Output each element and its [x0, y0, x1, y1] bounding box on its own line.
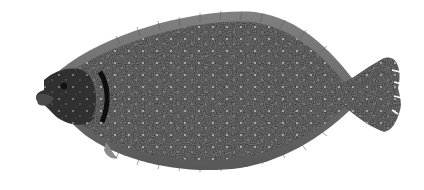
fish-eye [61, 83, 67, 89]
flounder-illustration [0, 0, 424, 190]
image-canvas: flounder (flatfish) illustration [0, 0, 424, 190]
